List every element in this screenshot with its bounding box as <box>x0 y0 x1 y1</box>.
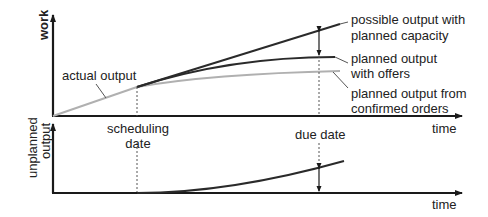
top-x-axis-label: time <box>432 121 457 136</box>
due-date-label: due date <box>295 127 346 142</box>
actual-output-label: actual output <box>62 68 136 83</box>
bottom-y-axis-label-2: output <box>39 123 52 159</box>
scheduling-date-label-2: date <box>102 136 174 151</box>
planned-offers-leader <box>335 57 348 63</box>
planned-confirmed-label-2: confirmed orders <box>351 101 449 116</box>
possible-output-curve <box>137 24 340 87</box>
planned-confirmed-label-1: planned output from <box>351 86 467 101</box>
possible-output-leader <box>340 22 348 24</box>
scheduling-date-label-1: scheduling <box>102 121 174 136</box>
planned-offers-label-2: with offers <box>351 66 410 81</box>
actual-output-curve <box>53 87 137 116</box>
possible-output-label-1: possible output with <box>351 12 465 27</box>
top-y-axis-label: work <box>37 10 50 40</box>
unplanned-output-curve <box>137 161 344 193</box>
actual-output-leader <box>96 84 106 98</box>
planned-confirmed-leader <box>333 72 348 88</box>
planned-offers-label-1: planned output <box>351 51 437 66</box>
possible-output-label-2: planned capacity <box>351 28 449 43</box>
bottom-x-axis-label: time <box>432 197 457 212</box>
